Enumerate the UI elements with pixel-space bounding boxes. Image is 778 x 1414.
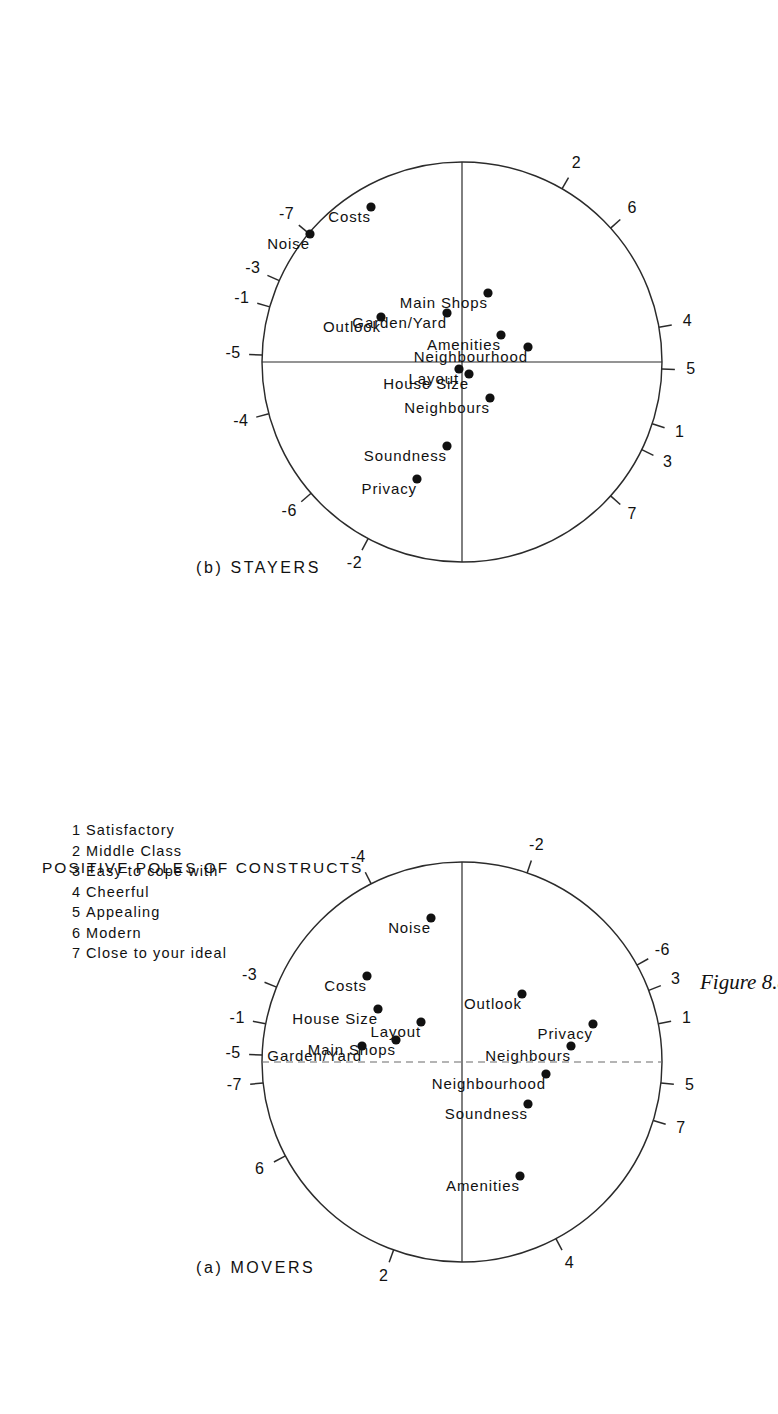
positive-pole-item: 4Cheerful — [72, 882, 227, 903]
positive-pole-label: Close to your ideal — [86, 945, 227, 961]
axis-tick-label: 3 — [663, 453, 672, 470]
axis-tick-mark — [637, 959, 648, 965]
axis-tick-mark — [652, 424, 664, 428]
axis-tick-mark — [562, 178, 569, 189]
axis-tick-mark — [250, 1083, 263, 1084]
data-point-label: Privacy — [538, 1025, 593, 1042]
axis-tick-label: 5 — [685, 1076, 694, 1093]
axis-tick-label: 4 — [683, 312, 692, 329]
positive-pole-item: 3Easy to cope with — [72, 861, 227, 882]
axis-tick-label: 4 — [565, 1254, 574, 1271]
axis-tick-label: 2 — [572, 154, 581, 171]
data-point-label: Costs — [324, 977, 367, 994]
data-point-label: Noise — [267, 235, 310, 252]
data-point-label: Garden/Yard — [352, 314, 447, 331]
data-point-label: Main Shops — [400, 294, 488, 311]
axis-tick-label: 7 — [627, 505, 636, 522]
positive-pole-number: 5 — [72, 902, 86, 923]
positive-poles-list: 1Satisfactory2Middle Class3Easy to cope … — [72, 820, 227, 964]
positive-pole-label: Middle Class — [86, 843, 182, 859]
axis-tick-mark — [265, 982, 277, 987]
axis-tick-label: -2 — [529, 836, 544, 853]
positive-pole-label: Easy to cope with — [86, 863, 218, 879]
axis-tick-label: -4 — [350, 848, 365, 865]
axis-tick-label: -4 — [233, 411, 248, 428]
figure-8-8: POSITIVE POLES OF CONSTRUCTS 1Satisfacto… — [0, 0, 778, 1414]
positive-pole-label: Modern — [86, 925, 142, 941]
positive-pole-number: 1 — [72, 820, 86, 841]
axis-tick-mark — [556, 1239, 562, 1250]
axis-tick-label: -6 — [282, 502, 297, 519]
data-point-label: Noise — [388, 919, 431, 936]
axis-tick-label: -5 — [226, 1044, 241, 1061]
data-point-label: Neighbours — [485, 1047, 571, 1064]
data-point-label: Main Shops — [308, 1041, 396, 1058]
axis-tick-label: -3 — [242, 966, 257, 983]
axis-tick-mark — [301, 493, 311, 502]
positive-pole-number: 7 — [72, 943, 86, 964]
axis-tick-mark — [362, 539, 368, 550]
axis-tick-mark — [653, 1120, 665, 1124]
data-point-label: Outlook — [464, 995, 522, 1012]
figure-caption-label: Figure 8.8 — [700, 970, 778, 994]
axis-tick-mark — [661, 1083, 674, 1084]
axis-tick-label: 5 — [686, 360, 695, 377]
axis-tick-label: -2 — [347, 554, 362, 571]
data-point-label: Soundness — [445, 1105, 528, 1122]
positive-pole-number: 2 — [72, 841, 86, 862]
axis-tick-mark — [274, 1156, 285, 1162]
axis-tick-mark — [256, 414, 269, 417]
plot-stayers: -2-6-4-5-1-3-72645137 NoiseCostsOutlookG… — [250, 150, 674, 574]
figure-caption: Figure 8.8 Castlereagh consensus grids — [700, 970, 778, 995]
axis-tick-label: 7 — [676, 1119, 685, 1136]
axis-tick-mark — [611, 219, 621, 228]
positive-pole-label: Satisfactory — [86, 822, 175, 838]
data-point-label: Neighbourhood — [432, 1075, 546, 1092]
data-point-label: Neighbourhood — [414, 348, 528, 365]
data-point-label: Layout — [371, 1023, 421, 1040]
data-point-label: Soundness — [364, 447, 447, 464]
axis-tick-label: 2 — [379, 1267, 388, 1284]
positive-pole-number: 3 — [72, 861, 86, 882]
axis-tick-mark — [527, 861, 531, 873]
data-point-label: Neighbours — [404, 399, 490, 416]
axis-tick-mark — [642, 450, 654, 456]
positive-pole-label: Appealing — [86, 904, 160, 920]
positive-pole-label: Cheerful — [86, 884, 150, 900]
figure-rotation-stage: POSITIVE POLES OF CONSTRUCTS 1Satisfacto… — [0, 0, 778, 1414]
axis-tick-label: -1 — [234, 289, 249, 306]
axis-tick-label: 3 — [671, 970, 680, 987]
plot-movers: 6247513-3-1-5-7-4-2-6 Garden/YardMain Sh… — [250, 850, 674, 1274]
axis-tick-label: -3 — [245, 259, 260, 276]
axis-tick-mark — [253, 1021, 266, 1023]
axis-tick-label: 1 — [682, 1009, 691, 1026]
axis-tick-mark — [365, 872, 371, 884]
axis-tick-mark — [257, 303, 270, 307]
data-point-label: Costs — [328, 208, 371, 225]
data-point-label: Privacy — [362, 480, 417, 497]
axis-tick-label: 6 — [255, 1160, 264, 1177]
positive-pole-item: 7Close to your ideal — [72, 943, 227, 964]
axis-tick-mark — [267, 275, 279, 280]
axis-tick-label: -7 — [227, 1076, 242, 1093]
data-point-label: House Size — [292, 1010, 378, 1027]
axis-tick-mark — [611, 496, 621, 505]
axis-tick-mark — [649, 986, 661, 991]
axis-tick-mark — [389, 1250, 393, 1262]
positive-pole-item: 6Modern — [72, 923, 227, 944]
positive-pole-number: 4 — [72, 882, 86, 903]
positive-pole-item: 1Satisfactory — [72, 820, 227, 841]
axis-tick-label: -1 — [230, 1009, 245, 1026]
axis-tick-label: -6 — [655, 941, 670, 958]
data-point-label: Amenities — [446, 1177, 520, 1194]
positive-pole-number: 6 — [72, 923, 86, 944]
axis-tick-label: 6 — [627, 199, 636, 216]
axis-tick-mark — [658, 1021, 671, 1023]
axis-tick-label: -5 — [226, 344, 241, 361]
axis-tick-label: -7 — [279, 205, 294, 222]
positive-pole-item: 2Middle Class — [72, 841, 227, 862]
positive-pole-item: 5Appealing — [72, 902, 227, 923]
axis-tick-label: 1 — [675, 423, 684, 440]
axis-tick-mark — [659, 325, 672, 327]
data-point-label: Layout — [409, 370, 459, 387]
